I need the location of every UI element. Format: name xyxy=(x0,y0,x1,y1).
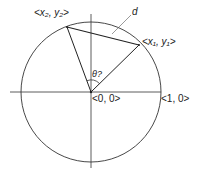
radius-to-point2 xyxy=(67,27,91,92)
angle-label: θ? xyxy=(92,70,102,79)
point1-label: <x₁, y₁> xyxy=(142,37,176,47)
point1-dot xyxy=(138,44,140,46)
diagram-canvas: <x₂, y₂> <x₁, y₁> d θ? <0, 0> <1, 0> xyxy=(0,0,204,171)
unit-circle-diagram xyxy=(0,0,204,171)
chord-label: d xyxy=(132,7,138,17)
angle-arc xyxy=(87,80,100,84)
origin-label: <0, 0> xyxy=(92,94,120,104)
chord-d xyxy=(67,27,139,45)
point2-dot xyxy=(66,26,68,28)
point2-label: <x₂, y₂> xyxy=(34,8,69,18)
chord-leader-line xyxy=(112,15,131,34)
unit-x-label: <1, 0> xyxy=(161,94,189,104)
